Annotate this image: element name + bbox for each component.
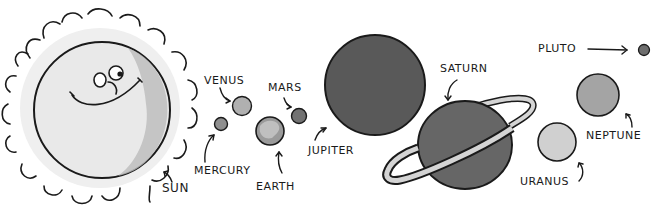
- pluto-planet: [639, 45, 650, 56]
- mercury-planet: [215, 118, 228, 131]
- neptune-arrow-icon: [626, 114, 632, 127]
- neptune-planet: [577, 74, 619, 116]
- pluto-arrow-icon: [588, 49, 627, 50]
- uranus-planet: [538, 123, 576, 161]
- earth-label: EARTH: [256, 181, 295, 192]
- saturn-planet: [418, 101, 512, 189]
- venus-label: VENUS: [204, 75, 244, 86]
- uranus-label: URANUS: [520, 176, 569, 187]
- saturn-arrow-icon: [448, 80, 457, 100]
- pluto-label: PLUTO: [538, 43, 576, 54]
- jupiter-label: JUPITER: [308, 145, 354, 156]
- neptune-label: NEPTUNE: [586, 130, 641, 141]
- solar-system-illustration: [0, 0, 670, 217]
- mercury-label: MERCURY: [194, 165, 250, 176]
- mars-planet: [292, 109, 307, 124]
- mars-label: MARS: [268, 82, 302, 93]
- jupiter-planet: [325, 35, 425, 135]
- uranus-arrow-icon: [579, 163, 583, 181]
- sun-label: SUN: [162, 182, 189, 194]
- venus-planet: [233, 97, 252, 116]
- saturn-label: SATURN: [440, 63, 488, 74]
